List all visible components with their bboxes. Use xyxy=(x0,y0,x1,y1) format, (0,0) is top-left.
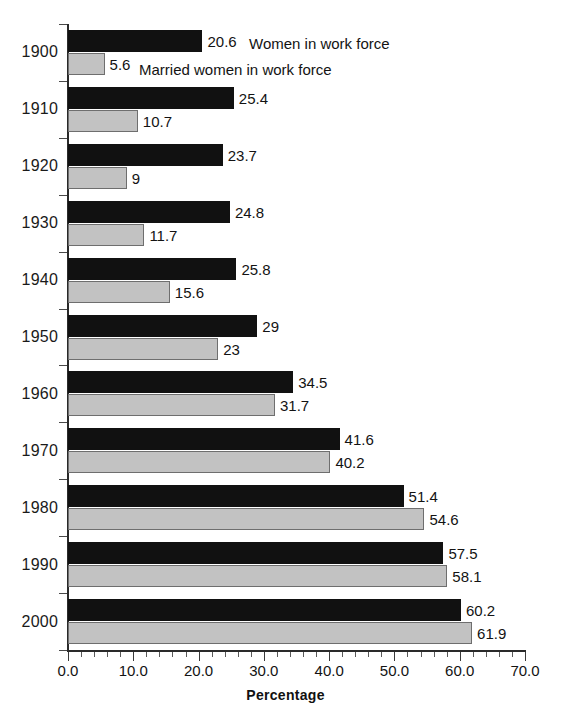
x-axis-minor-tick xyxy=(316,652,317,657)
bar-value-label: 5.6 xyxy=(110,57,131,72)
x-axis-minor-tick xyxy=(473,652,474,657)
bar-1970-series-1 xyxy=(68,451,330,473)
plot-area: 20.65.625.410.723.7924.811.725.815.62923… xyxy=(68,24,525,650)
category-label-1920: 1920 xyxy=(6,158,58,174)
x-axis-tick-label: 20.0 xyxy=(184,663,213,678)
bar-value-label: 9 xyxy=(132,171,140,186)
bar-value-label: 10.7 xyxy=(143,114,172,129)
x-axis-minor-tick xyxy=(238,652,239,657)
x-axis-minor-tick xyxy=(303,652,304,657)
x-axis-minor-tick xyxy=(407,652,408,657)
x-axis-major-tick xyxy=(264,652,265,661)
x-axis-minor-tick xyxy=(368,652,369,657)
x-axis-minor-tick xyxy=(486,652,487,657)
bar-1990-series-0 xyxy=(68,542,443,564)
bar-1900-series-1 xyxy=(68,53,105,75)
category-label-1980: 1980 xyxy=(6,500,58,516)
value-axis-line xyxy=(67,650,526,652)
bar-1980-series-1 xyxy=(68,508,424,530)
x-axis-minor-tick xyxy=(107,652,108,657)
bar-1950-series-1 xyxy=(68,338,218,360)
bar-value-label: 15.6 xyxy=(175,285,204,300)
bar-value-label: 31.7 xyxy=(280,398,309,413)
bar-1910-series-0 xyxy=(68,87,234,109)
x-axis-minor-tick xyxy=(146,652,147,657)
x-axis-major-tick xyxy=(199,652,200,661)
x-axis-tick-label: 10.0 xyxy=(119,663,148,678)
x-axis-minor-tick xyxy=(251,652,252,657)
category-label-2000: 2000 xyxy=(6,614,58,630)
bar-1970-series-0 xyxy=(68,428,340,450)
bar-value-label: 25.4 xyxy=(239,91,268,106)
x-axis-minor-tick xyxy=(421,652,422,657)
x-axis-tick-label: 50.0 xyxy=(380,663,409,678)
bar-1930-series-0 xyxy=(68,201,230,223)
x-axis-minor-tick xyxy=(186,652,187,657)
x-axis-tick-label: 40.0 xyxy=(315,663,344,678)
bar-1900-series-0 xyxy=(68,30,202,52)
bar-value-label: 60.2 xyxy=(466,603,495,618)
x-axis-minor-tick xyxy=(290,652,291,657)
bar-2000-series-0 xyxy=(68,599,461,621)
bar-value-label: 25.8 xyxy=(241,262,270,277)
bar-1920-series-0 xyxy=(68,144,223,166)
bar-chart: 1900191019201930194019501960197019801990… xyxy=(0,0,565,716)
category-label-1950: 1950 xyxy=(6,329,58,345)
legend-item-women-in-work-force: Women in work force xyxy=(249,36,390,51)
category-label-1940: 1940 xyxy=(6,272,58,288)
bar-1910-series-1 xyxy=(68,110,138,132)
bar-value-label: 58.1 xyxy=(452,569,481,584)
bar-value-label: 23.7 xyxy=(228,148,257,163)
x-axis-minor-tick xyxy=(355,652,356,657)
x-axis-minor-tick xyxy=(381,652,382,657)
category-label-1960: 1960 xyxy=(6,386,58,402)
bar-2000-series-1 xyxy=(68,622,472,644)
x-axis-tick-label: 70.0 xyxy=(510,663,539,678)
bar-1940-series-0 xyxy=(68,258,236,280)
bar-1940-series-1 xyxy=(68,281,170,303)
x-axis-minor-tick xyxy=(94,652,95,657)
x-axis-tick-label: 60.0 xyxy=(445,663,474,678)
x-axis-minor-tick xyxy=(225,652,226,657)
category-label-1990: 1990 xyxy=(6,557,58,573)
bar-value-label: 51.4 xyxy=(409,489,438,504)
x-axis-major-tick xyxy=(394,652,395,661)
bar-1960-series-1 xyxy=(68,394,275,416)
category-label-1970: 1970 xyxy=(6,443,58,459)
bar-value-label: 11.7 xyxy=(149,228,177,243)
bar-value-label: 57.5 xyxy=(448,546,477,561)
category-label-1910: 1910 xyxy=(6,101,58,117)
x-axis-minor-tick xyxy=(277,652,278,657)
bar-value-label: 20.6 xyxy=(207,34,236,49)
category-axis-labels: 1900191019201930194019501960197019801990… xyxy=(0,24,58,650)
bar-value-label: 24.8 xyxy=(235,205,264,220)
bar-1920-series-1 xyxy=(68,167,127,189)
bar-1930-series-1 xyxy=(68,224,144,246)
x-axis-minor-tick xyxy=(212,652,213,657)
category-label-1930: 1930 xyxy=(6,215,58,231)
x-axis-minor-tick xyxy=(434,652,435,657)
x-axis-minor-tick xyxy=(342,652,343,657)
x-axis-major-tick xyxy=(329,652,330,661)
bar-value-label: 34.5 xyxy=(298,375,327,390)
bar-value-label: 40.2 xyxy=(335,455,364,470)
x-axis-major-tick xyxy=(68,652,69,661)
bar-1980-series-0 xyxy=(68,485,404,507)
x-axis-minor-tick xyxy=(512,652,513,657)
bar-value-label: 54.6 xyxy=(429,512,458,527)
bar-1960-series-0 xyxy=(68,371,293,393)
x-axis-title: Percentage xyxy=(0,687,565,703)
x-axis-minor-tick xyxy=(499,652,500,657)
bar-value-label: 29 xyxy=(262,319,279,334)
x-axis-tick-label: 0.0 xyxy=(58,663,79,678)
x-axis-title-text: Percentage xyxy=(246,687,324,703)
x-axis-major-tick xyxy=(133,652,134,661)
legend-item-married-women-in-work-force: Married women in work force xyxy=(139,62,332,77)
category-label-1900: 1900 xyxy=(6,44,58,60)
bar-1950-series-0 xyxy=(68,315,257,337)
bar-value-label: 41.6 xyxy=(345,432,374,447)
x-axis-minor-tick xyxy=(159,652,160,657)
x-axis-minor-tick xyxy=(172,652,173,657)
bar-1990-series-1 xyxy=(68,565,447,587)
x-axis-minor-tick xyxy=(120,652,121,657)
